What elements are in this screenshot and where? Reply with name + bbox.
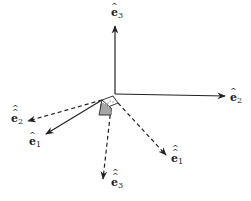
axis-rotated-e1 xyxy=(118,103,166,155)
label-e1: ^ e 1 xyxy=(29,130,41,149)
svg-text:2: 2 xyxy=(237,96,242,105)
diagram-canvas: ^ e 3 ^ e 2 ^ e 1 ^ ^ e 2 ^ ^ e 1 ^ ^ xyxy=(0,0,251,201)
axis-rotated-e2 xyxy=(28,100,102,121)
coordinate-frame-diagram: ^ e 3 ^ e 2 ^ e 1 ^ ^ e 2 ^ ^ e 1 ^ ^ xyxy=(0,0,251,201)
svg-text:e: e xyxy=(111,6,118,19)
svg-text:e: e xyxy=(230,91,237,104)
axis-rotated-e3 xyxy=(103,108,111,179)
svg-text:2: 2 xyxy=(18,117,23,126)
label-rotated-e1: ^ ^ e 1 xyxy=(171,143,183,166)
svg-text:e: e xyxy=(171,152,178,165)
svg-text:1: 1 xyxy=(178,157,183,166)
svg-text:e: e xyxy=(11,112,18,125)
label-rotated-e2: ^ ^ e 2 xyxy=(11,103,23,126)
svg-text:3: 3 xyxy=(118,11,123,20)
label-e3: ^ e 3 xyxy=(111,1,123,20)
label-e2: ^ e 2 xyxy=(230,86,242,105)
axis-e2 xyxy=(115,94,225,96)
svg-text:3: 3 xyxy=(118,181,123,190)
svg-text:e: e xyxy=(111,176,118,189)
svg-text:e: e xyxy=(29,135,36,148)
label-rotated-e3: ^ ^ e 3 xyxy=(111,167,123,190)
svg-text:1: 1 xyxy=(36,140,41,149)
axis-e1 xyxy=(46,100,102,134)
